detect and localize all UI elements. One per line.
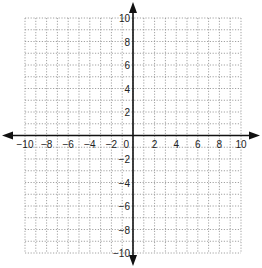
y-tick-label: −2 xyxy=(119,154,131,165)
y-tick-label: −6 xyxy=(119,201,131,212)
y-tick-label: −4 xyxy=(119,178,131,189)
x-tick-label: 4 xyxy=(173,139,179,150)
y-tick-label: 4 xyxy=(124,84,130,95)
x-axis-right-arrow-icon xyxy=(249,132,260,140)
coordinate-plane: −10−8−6−4−2246810108642−2−4−6−8−100 xyxy=(0,0,262,268)
x-tick-label: 6 xyxy=(195,139,201,150)
x-tick-label: −4 xyxy=(84,139,96,150)
x-axis-left-arrow-icon xyxy=(2,132,13,140)
y-tick-label: −8 xyxy=(119,225,131,236)
origin-label: 0 xyxy=(123,139,129,150)
y-axis-up-arrow-icon xyxy=(129,2,137,13)
x-tick-label: 8 xyxy=(217,139,223,150)
y-tick-label: −10 xyxy=(113,248,130,259)
x-tick-label: −10 xyxy=(17,139,34,150)
y-axis-down-arrow-icon xyxy=(129,255,137,266)
x-tick-label: 10 xyxy=(235,139,247,150)
y-tick-label: 10 xyxy=(119,13,131,24)
x-tick-label: −6 xyxy=(62,139,74,150)
y-tick-label: 8 xyxy=(124,37,130,48)
x-tick-label: −8 xyxy=(41,139,53,150)
y-tick-label: 2 xyxy=(124,107,130,118)
x-tick-label: 2 xyxy=(152,139,158,150)
x-tick-label: −2 xyxy=(106,139,118,150)
y-tick-label: 6 xyxy=(124,60,130,71)
